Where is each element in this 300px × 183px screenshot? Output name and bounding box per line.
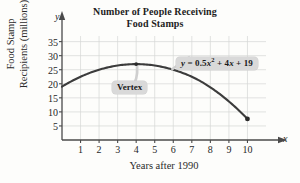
chart-figure: Number of People Receiving Food Stamps F… <box>0 0 300 183</box>
x-tick-label: 1 <box>78 144 83 155</box>
x-axis-variable-label: x <box>283 133 287 144</box>
plot-area: 510152025303512345678910 <box>62 36 266 140</box>
parabola-curve <box>62 36 266 140</box>
y-tick-label: 10 <box>48 106 58 117</box>
chart-title-line-1: Number of People Receiving <box>93 6 217 17</box>
equation-callout: y = 0.5x2 + 4x + 19 <box>176 57 258 70</box>
x-tick-label: 10 <box>242 144 252 155</box>
x-tick-label: 6 <box>171 144 176 155</box>
x-tick-label: 3 <box>115 144 120 155</box>
x-tick-label: 5 <box>152 144 157 155</box>
y-tick-label: 25 <box>48 64 58 75</box>
equation-lhs: y <box>181 58 185 68</box>
equation-equals: = <box>187 58 192 68</box>
equation-linear-term: + 4 <box>217 58 229 68</box>
equation-coefficient: 0.5 <box>195 58 207 68</box>
x-tick-label: 8 <box>208 144 213 155</box>
x-tick-label: 4 <box>134 144 139 155</box>
y-tick-label: 30 <box>48 50 58 61</box>
vertex-callout: Vertex <box>112 81 147 94</box>
y-axis-title: Food Stamp Recipients (millions) <box>4 0 40 104</box>
y-axis-variable-label: y <box>55 11 59 22</box>
y-tick-label: 20 <box>48 78 58 89</box>
y-axis-title-line-1: Food Stamp <box>4 0 17 104</box>
chart-title-line-2: Food Stamps <box>70 18 240 30</box>
x-axis-title: Years after 1990 <box>62 160 266 171</box>
y-axis-title-line-2: Recipients (millions) <box>17 0 30 104</box>
x-tick-label: 7 <box>189 144 194 155</box>
page-title: Number of People Receiving Food Stamps <box>70 6 240 29</box>
y-tick-label: 5 <box>53 120 58 131</box>
y-tick-label: 35 <box>48 36 58 47</box>
x-tick-label: 9 <box>226 144 231 155</box>
equation-constant: + 19 <box>236 58 253 68</box>
equation-variable-2: x <box>229 58 234 68</box>
equation-exponent: 2 <box>211 56 214 63</box>
x-tick-label: 2 <box>97 144 102 155</box>
y-tick-label: 15 <box>48 92 58 103</box>
